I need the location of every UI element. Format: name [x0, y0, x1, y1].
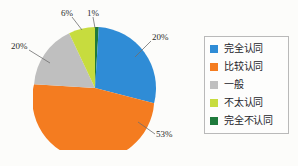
legend-swatch-icon-一般 [210, 81, 218, 89]
legend-item-不太认同: 不太认同 [210, 94, 288, 112]
pie-chart-figure: 20% 53% 20% 6% 1% 完全认同 比较认同 一般 不太认同 完全不认… [0, 0, 298, 166]
legend-item-完全认同: 完全认同 [210, 40, 288, 58]
legend-label-不太认同: 不太认同 [224, 98, 263, 108]
legend-item-比较认同: 比较认同 [210, 58, 288, 76]
legend-item-完全不认同: 完全不认同 [210, 112, 288, 130]
legend-label-一般: 一般 [224, 80, 244, 90]
legend-label-完全认同: 完全认同 [224, 44, 263, 54]
pie-label-不太认同: 6% [61, 8, 73, 18]
legend-label-比较认同: 比较认同 [224, 62, 263, 72]
legend-label-完全不认同: 完全不认同 [224, 116, 273, 126]
legend-swatch-icon-完全不认同 [210, 117, 218, 125]
pie-label-一般: 20% [11, 41, 28, 51]
legend-swatch-icon-完全认同 [210, 45, 218, 53]
legend-swatch-icon-比较认同 [210, 63, 218, 71]
legend-swatch-icon-不太认同 [210, 99, 218, 107]
pie-svg [33, 26, 157, 150]
legend-item-一般: 一般 [210, 76, 288, 94]
pie-chart [33, 26, 157, 150]
pie-label-完全不认同: 1% [87, 8, 99, 18]
chart-legend: 完全认同 比较认同 一般 不太认同 完全不认同 [204, 36, 289, 134]
pie-label-比较认同: 53% [156, 129, 173, 139]
pie-label-完全认同: 20% [152, 32, 169, 42]
